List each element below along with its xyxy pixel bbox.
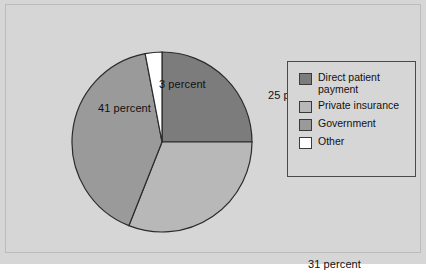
pie-label-private-insurance: 31 percent [308,258,361,270]
pie-label-other: 3 percent [159,78,206,90]
legend-swatch-icon [299,101,312,113]
legend-item-label: Private insurance [318,100,399,112]
pie-label-government: 41 percent [98,102,151,114]
pie-chart: 3 percent 25 percent 41 percent 31 perce… [70,50,254,234]
legend-item: Private insurance [299,100,411,113]
legend-item: Direct patient payment [299,72,411,95]
pie-slice [162,52,252,142]
legend-item: Other [299,136,411,149]
chart-legend: Direct patient paymentPrivate insuranceG… [287,61,416,177]
legend-swatch-icon [299,119,312,131]
figure-frame: 3 percent 25 percent 41 percent 31 perce… [5,4,421,253]
legend-item-list: Direct patient paymentPrivate insuranceG… [299,72,411,154]
legend-item: Government [299,118,411,131]
legend-swatch-icon [299,73,312,85]
legend-item-label: Government [318,118,376,130]
legend-item-label: Other [318,136,344,148]
legend-item-label: Direct patient payment [318,72,380,95]
legend-swatch-icon [299,137,312,149]
